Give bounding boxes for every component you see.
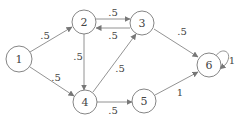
node-label-4: 4 xyxy=(82,96,89,109)
edge-label-3-2: .5 xyxy=(108,30,118,41)
node-2: 2 xyxy=(72,10,96,34)
node-1: 1 xyxy=(6,46,32,72)
edge-3-6: .5 xyxy=(154,26,198,58)
node-label-1: 1 xyxy=(16,53,23,66)
edge-2-3: .5 xyxy=(96,7,130,20)
node-4: 4 xyxy=(73,90,97,114)
edge-label-5-6: 1 xyxy=(177,87,183,98)
edge-4-3: .5 xyxy=(93,34,136,92)
node-3: 3 xyxy=(130,11,154,35)
edge-label-1-4: .5 xyxy=(51,72,61,83)
edge-1-4: .5 xyxy=(30,67,74,96)
edge-label-2-3: .5 xyxy=(108,7,118,18)
edge-label-6-6: 1 xyxy=(229,55,235,66)
edge-label-4-5: .5 xyxy=(108,105,118,116)
edge-4-5: .5 xyxy=(97,102,132,116)
node-6: 6 xyxy=(197,53,221,77)
node-label-2: 2 xyxy=(81,16,88,29)
edge-1-2: .5 xyxy=(30,27,72,52)
node-label-5: 5 xyxy=(141,95,148,108)
edge-3-2: .5 xyxy=(96,28,130,41)
edge-5-6: 1 xyxy=(155,72,198,98)
node-label-6: 6 xyxy=(206,59,213,72)
edge-label-3-6: .5 xyxy=(177,26,187,37)
edge-label-1-2: .5 xyxy=(40,30,50,41)
markov-chain-diagram: .5 .5 .5 .5 .5 .5 .5 .5 1 1 1 2 xyxy=(0,0,247,120)
edge-2-4: .5 xyxy=(73,34,84,90)
node-label-3: 3 xyxy=(139,17,146,30)
edge-label-2-4: .5 xyxy=(73,51,83,62)
edge-label-4-3: .5 xyxy=(115,63,125,74)
node-5: 5 xyxy=(132,89,156,113)
